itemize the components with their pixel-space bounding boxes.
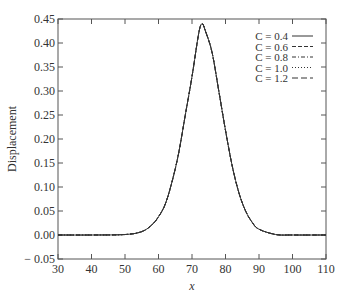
x-tick-label: 60 <box>153 262 165 276</box>
y-tick-label: 0.25 <box>34 108 55 122</box>
y-tick-label: 0.10 <box>34 180 55 194</box>
legend: C = 0.4C = 0.6C = 0.8C = 1.0C = 1.2 <box>255 30 313 84</box>
y-tick-label: 0.30 <box>34 84 55 98</box>
legend-label: C = 1.2 <box>255 72 288 84</box>
y-tick-label: 0.45 <box>34 12 55 26</box>
tick-labels: 30405060708090100110− 0.050.000.050.100.… <box>24 12 335 276</box>
y-tick-label: 0.20 <box>34 132 55 146</box>
x-tick-label: 50 <box>119 262 131 276</box>
y-tick-label: 0.00 <box>34 228 55 242</box>
x-tick-label: 100 <box>284 262 302 276</box>
y-axis-title: Displacement <box>5 105 19 172</box>
displacement-chart: 30405060708090100110− 0.050.000.050.100.… <box>0 0 344 296</box>
x-tick-label: 90 <box>253 262 265 276</box>
x-tick-label: 40 <box>86 262 98 276</box>
y-tick-label: 0.35 <box>34 60 55 74</box>
x-axis-title: x <box>188 279 195 293</box>
y-tick-label: 0.05 <box>34 204 55 218</box>
x-tick-label: 80 <box>220 262 232 276</box>
x-tick-label: 70 <box>186 262 198 276</box>
y-tick-label: − 0.05 <box>24 252 55 266</box>
x-tick-label: 110 <box>317 262 335 276</box>
y-tick-label: 0.40 <box>34 36 55 50</box>
y-tick-label: 0.15 <box>34 156 55 170</box>
